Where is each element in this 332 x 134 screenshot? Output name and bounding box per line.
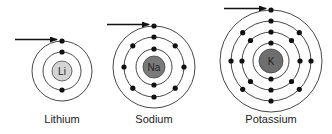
electron <box>130 43 135 48</box>
electron <box>151 82 156 87</box>
electron <box>228 58 233 63</box>
electron <box>308 58 313 63</box>
electron <box>173 43 178 48</box>
atom-lithium: Li <box>15 38 92 101</box>
electron <box>289 79 294 84</box>
electron <box>59 38 64 43</box>
electron <box>151 94 156 99</box>
electron <box>240 30 245 35</box>
electron <box>151 23 156 28</box>
electron <box>130 86 135 91</box>
element-symbol: K <box>268 56 275 67</box>
electron <box>239 58 244 63</box>
electron <box>151 46 156 51</box>
atom-label-lithium: Lithium <box>17 113 107 125</box>
element-symbol: Na <box>148 62 161 73</box>
electron <box>268 98 273 103</box>
electron <box>121 64 126 69</box>
electron <box>59 49 64 54</box>
electron <box>248 79 253 84</box>
atom-potassium: K <box>220 7 322 112</box>
electron <box>240 87 245 92</box>
electron <box>268 29 273 34</box>
electron <box>297 30 302 35</box>
atom-sodium: Na <box>107 23 195 108</box>
electron <box>173 86 178 91</box>
electron <box>297 87 302 92</box>
electron <box>181 64 186 69</box>
element-symbol: Li <box>58 66 66 77</box>
electron <box>268 7 273 12</box>
electron <box>268 87 273 92</box>
electron <box>268 40 273 45</box>
electron <box>151 34 156 39</box>
electron <box>248 38 253 43</box>
atom-label-potassium: Potassium <box>226 113 316 125</box>
electron <box>268 18 273 23</box>
atom-label-sodium: Sodium <box>109 113 199 125</box>
electron <box>268 76 273 81</box>
electron <box>297 58 302 63</box>
electron <box>289 38 294 43</box>
electron <box>59 87 64 92</box>
